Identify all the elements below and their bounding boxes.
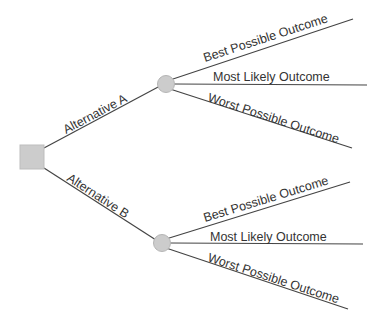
decision-node-square [20,145,44,169]
edge-a-likely [174,84,367,85]
outcome-a-best-label: Best Possible Outcome [202,11,330,64]
decision-tree-diagram: Alternative A Alternative B Best Possibl… [0,0,385,328]
outcome-a-likely-label: Most Likely Outcome [213,70,330,84]
outcome-b-likely-label: Most Likely Outcome [210,230,327,244]
outcome-b-best-label: Best Possible Outcome [202,173,330,224]
alternative-b-label: Alternative B [64,171,131,221]
outcome-b-worst-label: Worst Possible Outcome [206,251,341,307]
outcome-a-worst-label: Worst Possible Outcome [206,91,341,147]
chance-node-b [154,235,171,252]
alternative-a-label: Alternative A [61,91,130,137]
chance-node-a [158,76,175,93]
